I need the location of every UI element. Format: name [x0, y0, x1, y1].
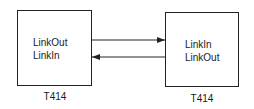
port-label: LinkOut: [185, 52, 219, 64]
port-label: LinkOut: [33, 37, 67, 49]
transputer-box-right: LinkIn LinkOut: [165, 12, 239, 87]
transputer-box-left: LinkOut LinkIn: [17, 10, 92, 86]
node-caption-left: T414: [25, 91, 85, 103]
node-caption-right: T414: [172, 93, 232, 105]
port-label: LinkIn: [33, 50, 60, 62]
port-label: LinkIn: [185, 39, 212, 51]
